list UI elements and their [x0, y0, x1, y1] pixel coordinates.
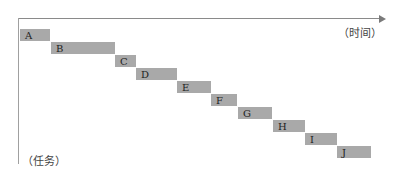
task-label: E — [182, 81, 189, 94]
task-label: C — [120, 55, 128, 68]
task-axis-label: （任务） — [22, 152, 66, 168]
time-axis-line — [18, 18, 380, 19]
task-label: G — [243, 107, 251, 120]
task-bar-g: G — [238, 107, 272, 119]
task-bar-c: C — [115, 55, 136, 67]
task-label: J — [342, 146, 346, 159]
task-bar-j: J — [337, 146, 371, 158]
task-label: A — [25, 29, 32, 42]
task-label: I — [310, 133, 314, 146]
task-bar-h: H — [273, 120, 305, 132]
task-label: F — [216, 94, 223, 107]
task-bar-b: B — [51, 42, 115, 54]
task-label: B — [56, 42, 63, 55]
time-axis-label: （时间） — [338, 24, 382, 40]
task-bar-f: F — [211, 94, 237, 106]
task-label: H — [278, 120, 287, 133]
task-bar-d: D — [136, 68, 177, 80]
task-axis-line — [18, 18, 19, 164]
task-bar-i: I — [305, 133, 337, 145]
task-bar-a: A — [20, 29, 50, 41]
time-axis-arrow-icon — [379, 15, 386, 23]
task-label: D — [141, 68, 149, 81]
task-bar-e: E — [177, 81, 211, 93]
